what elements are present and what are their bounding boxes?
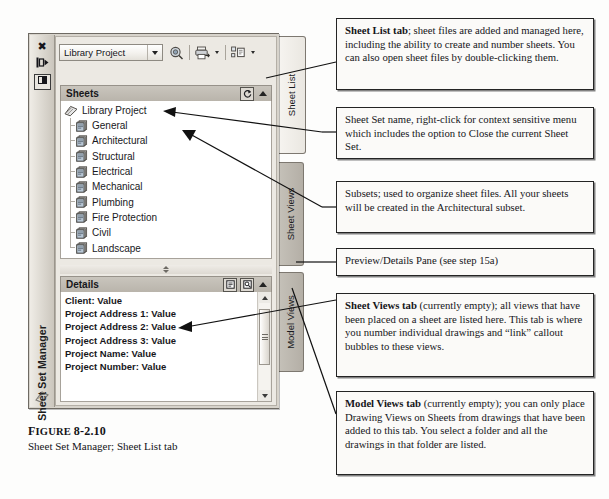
details-panel-buttons xyxy=(223,278,271,292)
details-panel-title: Details xyxy=(61,279,223,290)
sheet-set-logo-icon xyxy=(35,391,49,403)
tree-item[interactable]: Electrical xyxy=(76,164,271,179)
subset-folder-icon xyxy=(76,120,88,132)
tree-item-label: Civil xyxy=(92,227,111,238)
sheet-set-dropdown-icon[interactable] xyxy=(249,44,257,61)
sheet-set-selector[interactable]: Library Project xyxy=(59,44,163,61)
tab-sheet-views[interactable]: Sheet Views xyxy=(277,162,304,266)
auto-hide-icon[interactable] xyxy=(35,57,50,71)
subset-folder-icon xyxy=(76,242,88,254)
close-icon[interactable]: ✖ xyxy=(35,40,50,54)
collapse-sheets-icon[interactable] xyxy=(259,91,267,96)
tree-item[interactable]: Structural xyxy=(76,149,271,164)
tree-item-label: Landscape xyxy=(92,243,141,254)
details-pane: Client: ValueProject Address 1: ValuePro… xyxy=(60,292,272,402)
pane-splitter[interactable] xyxy=(60,265,272,274)
refresh-glyph xyxy=(243,89,252,98)
subset-folder-icon xyxy=(76,181,88,193)
auto-hide-glyph xyxy=(36,57,49,68)
figure-number-line: FIGURE 8-2.10 xyxy=(28,424,288,439)
figure-label-prefix: F xyxy=(28,424,36,438)
callout-sheet-set-name-text: Sheet Set name, right-click for context … xyxy=(345,113,577,152)
sheet-set-root-icon xyxy=(64,105,78,117)
details-line: Project Name: Value xyxy=(65,347,257,360)
palette-body: ✖ Sheet Set xyxy=(28,33,279,409)
tree-item-label: Architectural xyxy=(92,135,148,146)
callout-model-views-bold: Model Views tab xyxy=(345,397,421,409)
tree-item-label: Plumbing xyxy=(92,197,134,208)
figure-page: Sheet List Sheet Views Model Views ✖ xyxy=(0,0,609,499)
tab-sheet-views-label: Sheet Views xyxy=(285,188,296,241)
details-line: Project Number: Value xyxy=(65,360,257,373)
palette-tab-strip: Sheet List Sheet Views Model Views xyxy=(277,36,306,366)
tree-item[interactable]: Civil xyxy=(76,225,271,240)
tree-item[interactable]: Architectural xyxy=(76,133,271,148)
tab-sheet-list[interactable]: Sheet List xyxy=(277,36,306,154)
sheets-panel-buttons xyxy=(240,87,271,101)
details-panel-header: Details xyxy=(60,276,272,293)
details-scrollbar[interactable] xyxy=(257,292,271,401)
scroll-thumb[interactable] xyxy=(259,309,270,365)
tree-root-item[interactable]: Library Project xyxy=(64,103,271,118)
figure-caption-text: Sheet Set Manager; Sheet List tab xyxy=(28,440,288,452)
tab-model-views[interactable]: Model Views xyxy=(277,272,304,372)
palette-title-bar: ✖ Sheet Set xyxy=(30,35,55,407)
sheet-set-selector-value: Library Project xyxy=(60,47,147,58)
preview-icon[interactable] xyxy=(240,278,254,292)
tree-item-label: Mechanical xyxy=(92,181,143,192)
tree-item[interactable]: Landscape xyxy=(76,240,271,255)
sheets-panel-header: Sheets xyxy=(60,85,272,102)
subset-folder-icon xyxy=(76,196,88,208)
palette-title-buttons: ✖ xyxy=(30,38,54,93)
tree-item[interactable]: Mechanical xyxy=(76,179,271,194)
sheet-set-tree-glyph xyxy=(231,46,246,60)
properties-menu-icon[interactable] xyxy=(34,74,51,90)
details-view-glyph xyxy=(226,280,235,289)
callout-preview-text: Preview/Details Pane (see step 15a) xyxy=(345,254,498,266)
palette-toolbar: Library Project xyxy=(59,41,273,64)
tree-item-label: Structural xyxy=(92,151,135,162)
subset-folder-icon xyxy=(76,135,88,147)
callout-sheet-list-tab: Sheet List tab; sheet files are added an… xyxy=(336,18,594,90)
callout-sheet-list-bold: Sheet List tab xyxy=(345,24,408,36)
sheet-set-icon[interactable] xyxy=(230,44,247,61)
palette-content: Library Project xyxy=(55,36,277,406)
callout-sheet-views-bold: Sheet Views tab xyxy=(345,299,417,311)
scroll-up-icon[interactable] xyxy=(259,292,270,303)
callout-subsets-text: Subsets; used to organize sheet files. A… xyxy=(345,187,568,213)
preview-glyph xyxy=(243,280,252,289)
tab-model-views-label: Model Views xyxy=(285,295,296,349)
publish-dropdown-icon[interactable] xyxy=(213,44,221,61)
tree-item[interactable]: General xyxy=(76,118,271,133)
details-view-icon[interactable] xyxy=(223,278,237,292)
scroll-thumb-grip-icon xyxy=(262,333,268,342)
collapse-details-icon[interactable] xyxy=(259,282,267,287)
figure-label-rest: IGURE xyxy=(36,426,71,437)
figure-caption: FIGURE 8-2.10 Sheet Set Manager; Sheet L… xyxy=(28,424,288,452)
details-search-glyph xyxy=(169,46,184,60)
publish-icon[interactable] xyxy=(194,44,211,61)
callout-sheet-set-name: Sheet Set name, right-click for context … xyxy=(336,107,594,159)
tree-item-label: Electrical xyxy=(92,166,133,177)
callout-subsets: Subsets; used to organize sheet files. A… xyxy=(336,181,594,233)
callout-model-views-tab: Model Views tab (currently empty); you c… xyxy=(336,391,594,475)
chevron-down-icon[interactable] xyxy=(147,45,162,60)
scroll-track[interactable] xyxy=(259,303,270,390)
details-line: Project Address 2: Value xyxy=(65,320,257,333)
tree-item-label: Fire Protection xyxy=(92,212,157,223)
publish-printer-glyph xyxy=(195,46,210,60)
palette-title: Sheet Set Manager xyxy=(36,310,48,436)
details-search-icon[interactable] xyxy=(168,44,185,61)
splitter-grip-icon xyxy=(162,266,171,274)
tree-item[interactable]: Plumbing xyxy=(76,194,271,209)
tree-item[interactable]: Fire Protection xyxy=(76,210,271,225)
sheets-tree[interactable]: Library Project GeneralArchitecturalStru… xyxy=(60,101,272,259)
callout-preview-details-pane: Preview/Details Pane (see step 15a) xyxy=(336,248,594,276)
scroll-down-icon[interactable] xyxy=(259,390,270,401)
sheet-set-manager-palette: Sheet List Sheet Views Model Views ✖ xyxy=(28,33,306,411)
tab-sheet-list-label: Sheet List xyxy=(286,74,297,116)
tree-items-container: GeneralArchitecturalStructuralElectrical… xyxy=(64,118,271,256)
toolbar-separator-2 xyxy=(225,45,226,60)
refresh-icon[interactable] xyxy=(240,87,254,101)
subset-folder-icon xyxy=(76,227,88,239)
